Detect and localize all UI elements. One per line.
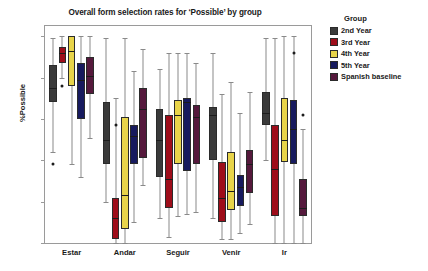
box-body — [130, 125, 138, 164]
box-plot-box — [290, 26, 298, 243]
whisker-cap — [122, 243, 127, 244]
median-line — [103, 140, 111, 141]
legend-item[interactable]: 4th Year — [330, 49, 428, 58]
box-plot-box — [86, 26, 94, 243]
whisker-cap — [210, 218, 215, 219]
box-body — [174, 100, 182, 164]
whisker-cap — [282, 36, 287, 37]
median-line — [139, 109, 147, 110]
y-tick-mark — [41, 78, 45, 79]
median-line — [227, 191, 235, 192]
whisker-cap — [60, 78, 65, 79]
box-body — [271, 125, 279, 216]
box-body — [290, 100, 298, 164]
median-line — [156, 140, 164, 141]
whisker-cap — [300, 129, 305, 130]
box-body — [103, 102, 111, 164]
y-tick-mark — [41, 202, 45, 203]
median-line — [183, 102, 191, 103]
whisker-cap — [220, 239, 225, 240]
box-plot-box — [121, 26, 129, 243]
y-tick-mark — [41, 36, 45, 37]
box-body — [183, 98, 191, 170]
median-line — [290, 129, 298, 130]
whisker-cap — [220, 94, 225, 95]
legend-items: 2nd Year3rd Year4th Year5th YearSpanish … — [330, 26, 428, 81]
whisker-cap — [176, 53, 181, 54]
box-plot-box — [237, 26, 245, 243]
box-plot-box — [183, 26, 191, 243]
whisker-cap — [141, 185, 146, 186]
whisker-cap — [229, 82, 234, 83]
legend-item[interactable]: 2nd Year — [330, 26, 428, 35]
outlier-point — [61, 84, 64, 87]
box-body — [193, 105, 201, 165]
median-line — [130, 136, 138, 137]
y-axis-label: %Possible — [18, 84, 27, 122]
box-plot-box — [218, 26, 226, 243]
whisker-cap — [273, 38, 278, 39]
outlier-point — [292, 51, 295, 54]
median-line — [112, 218, 120, 219]
whisker-cap — [141, 49, 146, 50]
box-plot-box — [262, 26, 270, 243]
whisker-cap — [238, 113, 243, 114]
whisker-cap — [51, 152, 56, 153]
y-tick-mark — [41, 119, 45, 120]
chart-root: Overall form selection rates for ‘Possib… — [0, 0, 428, 271]
box-body — [121, 117, 129, 229]
x-tick-label: Estar — [62, 248, 81, 257]
box-body — [156, 109, 164, 177]
legend-swatch-icon — [330, 27, 338, 35]
box-plot-box — [130, 26, 138, 243]
whisker-cap — [229, 239, 234, 240]
box-plot-box — [49, 26, 57, 243]
whisker-cap — [104, 202, 109, 203]
whisker-cap — [264, 160, 269, 161]
whisker-cap — [247, 92, 252, 93]
whisker-cap — [264, 38, 269, 39]
whisker-cap — [113, 98, 118, 99]
median-line — [77, 80, 85, 81]
y-tick-mark — [41, 243, 45, 244]
box-plot-box — [281, 26, 289, 243]
box-body — [68, 36, 76, 86]
box-body — [139, 88, 147, 158]
legend: Group 2nd Year3rd Year4th Year5th YearSp… — [330, 14, 428, 84]
box-plot-box — [112, 26, 120, 243]
box-body — [299, 179, 307, 216]
box-body — [237, 175, 245, 206]
median-line — [262, 113, 270, 114]
box-plot-box — [68, 26, 76, 243]
box-body — [227, 152, 235, 210]
box-plot-box — [271, 26, 279, 243]
whisker-cap — [122, 38, 127, 39]
whisker-cap — [238, 233, 243, 234]
whisker-cap — [194, 63, 199, 64]
median-line — [49, 88, 57, 89]
box-body — [262, 92, 270, 125]
legend-item[interactable]: Spanish baseline — [330, 72, 428, 81]
whisker-cap — [132, 71, 137, 72]
legend-item[interactable]: 5th Year — [330, 61, 428, 70]
whisker-cap — [69, 164, 74, 165]
median-line — [68, 51, 76, 52]
outlier-point — [52, 163, 55, 166]
median-line — [209, 115, 217, 116]
whisker-cap — [78, 177, 83, 178]
x-tick-label: Venir — [222, 248, 241, 257]
box-body — [246, 150, 254, 193]
box-plot-box — [139, 26, 147, 243]
whisker-cap — [88, 36, 93, 37]
whisker-cap — [60, 36, 65, 37]
whisker-cap — [51, 38, 56, 39]
box-body — [77, 63, 85, 119]
legend-item[interactable]: 3rd Year — [330, 38, 428, 47]
box-plot-box — [174, 26, 182, 243]
whisker-cap — [88, 138, 93, 139]
chart-title: Overall form selection rates for ‘Possib… — [0, 8, 330, 17]
x-tick-label: Ir — [282, 248, 287, 257]
legend-swatch-icon — [330, 38, 338, 46]
outlier-point — [114, 124, 117, 127]
median-line — [246, 164, 254, 165]
